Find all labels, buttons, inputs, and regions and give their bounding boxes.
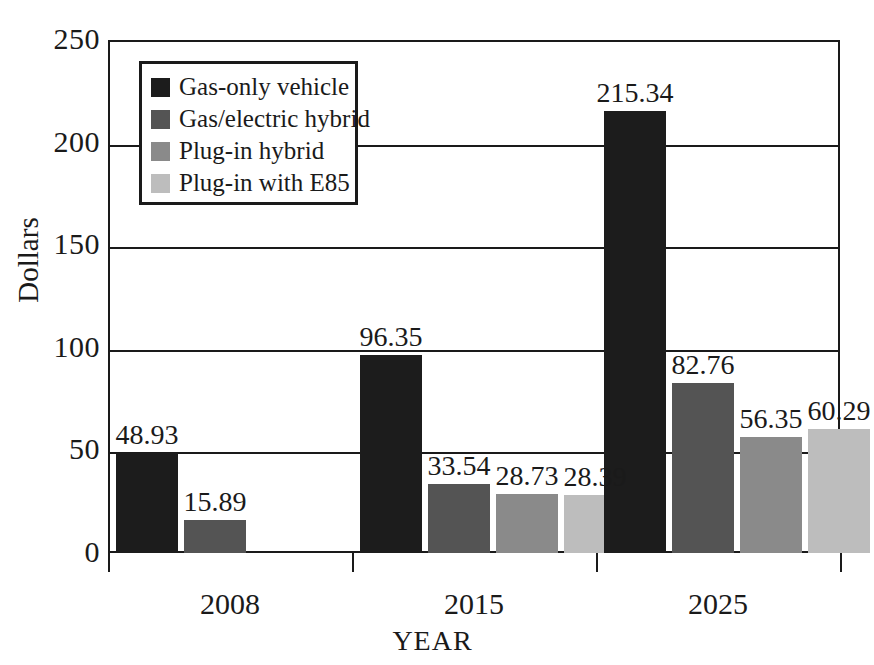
x-axis-tick-label: 2008 bbox=[130, 588, 330, 620]
y-axis-tick-label: 0 bbox=[12, 537, 100, 567]
legend-swatch-icon bbox=[151, 110, 170, 129]
legend-swatch-icon bbox=[151, 78, 170, 97]
bar bbox=[808, 429, 870, 553]
y-axis-tick-label: 50 bbox=[12, 434, 100, 464]
legend-swatch-icon bbox=[151, 174, 170, 193]
legend-label: Plug-in with E85 bbox=[179, 170, 350, 196]
legend-swatch-icon bbox=[151, 142, 170, 161]
y-axis-tick-label: 200 bbox=[12, 127, 100, 157]
x-axis-tick bbox=[596, 553, 598, 572]
x-axis-tick bbox=[108, 553, 110, 572]
legend: Gas-only vehicleGas/electric hybridPlug-… bbox=[139, 61, 358, 205]
legend-item[interactable]: Gas/electric hybrid bbox=[151, 103, 347, 135]
bar bbox=[740, 437, 802, 553]
legend-item[interactable]: Gas-only vehicle bbox=[151, 71, 347, 103]
legend-label: Gas/electric hybrid bbox=[179, 106, 370, 132]
legend-item[interactable]: Plug-in hybrid bbox=[151, 135, 347, 167]
legend-item[interactable]: Plug-in with E85 bbox=[151, 167, 347, 199]
legend-label: Gas-only vehicle bbox=[179, 74, 349, 100]
x-axis-title: YEAR bbox=[0, 626, 865, 656]
x-axis-tick bbox=[352, 553, 354, 572]
bar bbox=[184, 520, 246, 553]
bar bbox=[360, 355, 422, 553]
y-axis-title: Dollars bbox=[13, 180, 43, 340]
bar bbox=[672, 383, 734, 553]
legend-label: Plug-in hybrid bbox=[179, 138, 324, 164]
bar bbox=[116, 453, 178, 553]
x-axis-tick-label: 2025 bbox=[618, 588, 818, 620]
x-axis-tick bbox=[840, 553, 842, 572]
y-axis-tick-label: 250 bbox=[12, 24, 100, 54]
bar bbox=[604, 111, 666, 553]
bar bbox=[496, 494, 558, 553]
x-axis-tick-label: 2015 bbox=[374, 588, 574, 620]
bar bbox=[428, 484, 490, 553]
